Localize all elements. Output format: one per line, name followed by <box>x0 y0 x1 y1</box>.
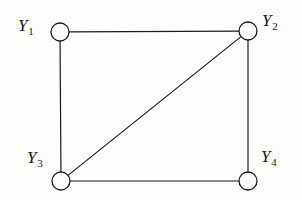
node-label-y1: Y1 <box>18 17 34 37</box>
node-label-y3: Y3 <box>27 149 43 169</box>
edge-group <box>60 31 248 181</box>
node-label-y4-base: Y <box>261 147 271 166</box>
node-y2[interactable] <box>239 22 257 40</box>
graph-figure: Y1 Y2 Y3 Y4 <box>0 0 302 200</box>
node-label-y1-base: Y <box>18 16 28 35</box>
node-y4[interactable] <box>239 172 257 190</box>
node-label-y3-subscript: 3 <box>37 157 43 169</box>
node-label-y2: Y2 <box>262 12 278 32</box>
edge-y3-y2 <box>68 37 241 176</box>
node-y3[interactable] <box>52 172 70 190</box>
edge-y1-y2 <box>69 31 239 32</box>
graph-canvas <box>0 0 302 200</box>
node-label-y2-base: Y <box>262 11 272 30</box>
node-label-y2-subscript: 2 <box>272 20 278 32</box>
node-label-y1-subscript: 1 <box>28 25 34 37</box>
node-label-y4-subscript: 4 <box>271 156 277 168</box>
node-label-y4: Y4 <box>261 148 277 168</box>
node-label-y3-base: Y <box>27 148 37 167</box>
edge-y1-y3 <box>60 41 61 172</box>
node-y1[interactable] <box>51 23 69 41</box>
